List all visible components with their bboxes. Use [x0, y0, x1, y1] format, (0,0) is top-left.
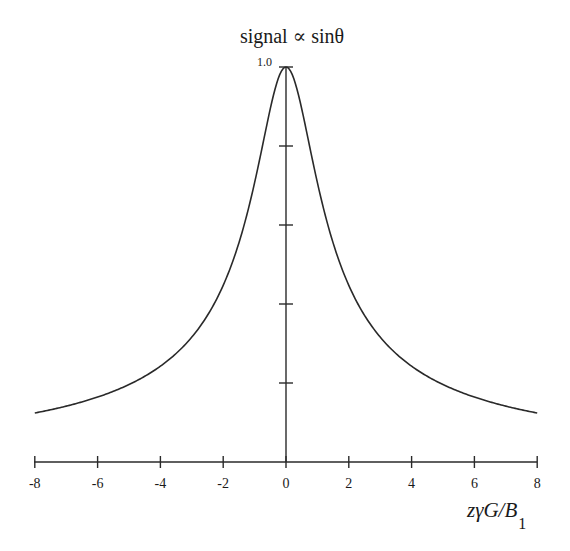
chart-title: signal ∝ sinθ	[0, 24, 570, 48]
x-axis-label-subscript: 1	[518, 515, 526, 532]
x-tick-label: 0	[271, 476, 301, 492]
x-tick-label: 2	[334, 476, 364, 492]
x-axis-label: zγG/B1	[467, 498, 526, 524]
x-tick-label: -4	[145, 476, 175, 492]
x-tick-label: -2	[208, 476, 238, 492]
x-tick-label: 8	[522, 476, 552, 492]
x-axis-label-main: zγG/B	[467, 498, 517, 522]
x-tick-label: -6	[83, 476, 113, 492]
chart-plot-area	[0, 0, 570, 551]
x-tick-label: 4	[397, 476, 427, 492]
x-tick-label: 6	[459, 476, 489, 492]
axes	[34, 67, 537, 468]
x-tick-label: -8	[20, 476, 50, 492]
y-tick-label-top: 1.0	[257, 56, 272, 68]
